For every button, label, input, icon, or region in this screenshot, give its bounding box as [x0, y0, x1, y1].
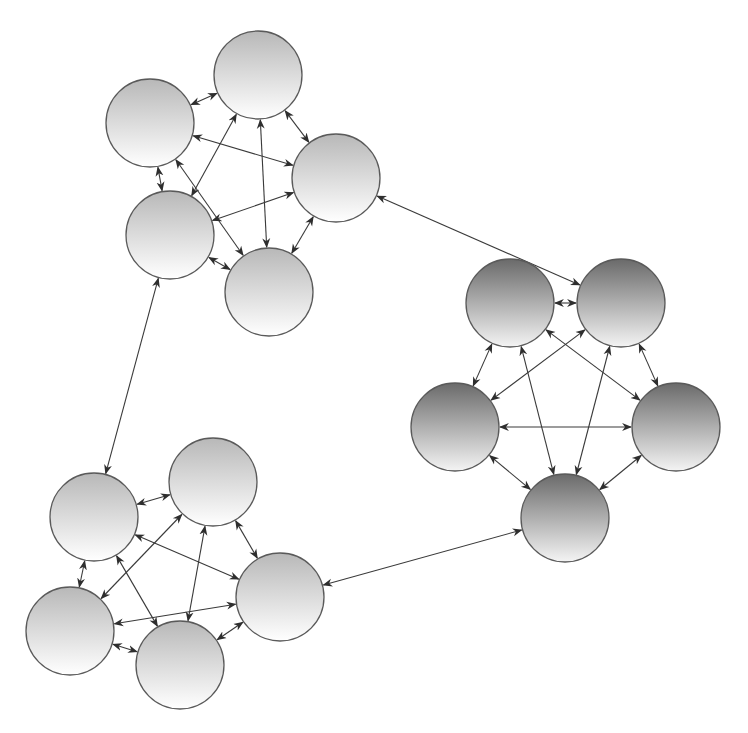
edge-I-J [600, 456, 641, 490]
nodes-layer [26, 31, 720, 709]
edge-A-B [191, 93, 217, 104]
edge-B-C [193, 136, 293, 165]
node-O [136, 621, 224, 709]
edge-G-I [639, 344, 658, 386]
node-K [50, 473, 138, 561]
network-diagram [0, 0, 748, 733]
inter-edge-M-J [323, 530, 521, 585]
node-H [411, 383, 499, 471]
edge-K-O [117, 556, 158, 626]
edge-H-J [490, 456, 531, 490]
edge-A-D [192, 114, 237, 195]
inter-edge-D-K [106, 278, 159, 473]
edge-L-O [188, 526, 205, 620]
edge-C-E [292, 217, 313, 253]
node-M [236, 553, 324, 641]
edge-G-J [576, 347, 609, 475]
node-F [466, 259, 554, 347]
edge-M-O [217, 622, 243, 639]
node-L [169, 438, 257, 526]
edge-N-O [113, 644, 137, 651]
edge-C-D [213, 193, 294, 221]
cluster-top [106, 31, 380, 336]
node-D [126, 191, 214, 279]
cluster-bottom [26, 438, 324, 709]
node-E [225, 248, 313, 336]
edge-A-C [285, 111, 309, 142]
edge-K-L [137, 495, 170, 505]
edge-F-H [473, 344, 492, 386]
cluster-right [411, 259, 720, 562]
edge-K-N [79, 561, 84, 587]
node-I [632, 383, 720, 471]
node-B [106, 79, 194, 167]
edge-B-D [158, 167, 162, 190]
edge-K-M [135, 535, 238, 579]
node-N [26, 587, 114, 675]
node-C [292, 134, 380, 222]
edge-A-E [260, 120, 266, 247]
edge-D-E [209, 258, 230, 270]
node-J [521, 474, 609, 562]
node-A [214, 31, 302, 119]
node-G [577, 259, 665, 347]
edge-L-M [236, 521, 258, 558]
